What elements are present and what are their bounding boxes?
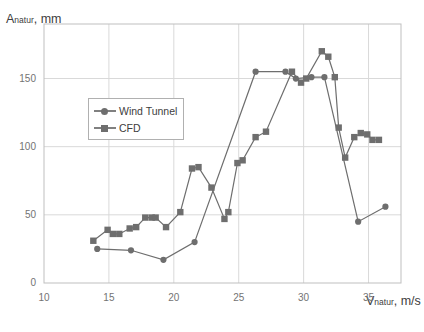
legend-label-cfd: CFD [119, 122, 141, 134]
legend: Wind Tunnel CFD [88, 98, 184, 140]
x-axis-tick-10: 10 [24, 292, 64, 303]
x-axis-tick-35: 35 [349, 292, 389, 303]
data-series-layer [90, 48, 388, 263]
plot-svg [0, 0, 424, 332]
legend-item-cfd: CFD [94, 120, 141, 136]
x-axis-tick-25: 25 [219, 292, 259, 303]
y-axis-tick-100: 100 [4, 141, 36, 152]
y-axis-tick-0: 0 [4, 277, 36, 288]
legend-marker-circle-icon [94, 106, 116, 116]
y-axis-tick-50: 50 [4, 209, 36, 220]
x-axis-tick-20: 20 [154, 292, 194, 303]
chart-container: Anatur, mm Vnatur, m/s 050100150 1015202… [0, 0, 424, 332]
x-axis-tick-30: 30 [284, 292, 324, 303]
legend-item-wind-tunnel: Wind Tunnel [94, 103, 177, 119]
y-axis-tick-150: 150 [4, 73, 36, 84]
x-axis-tick-15: 15 [89, 292, 129, 303]
legend-label-wind-tunnel: Wind Tunnel [119, 105, 177, 117]
legend-marker-square-icon [94, 123, 116, 133]
